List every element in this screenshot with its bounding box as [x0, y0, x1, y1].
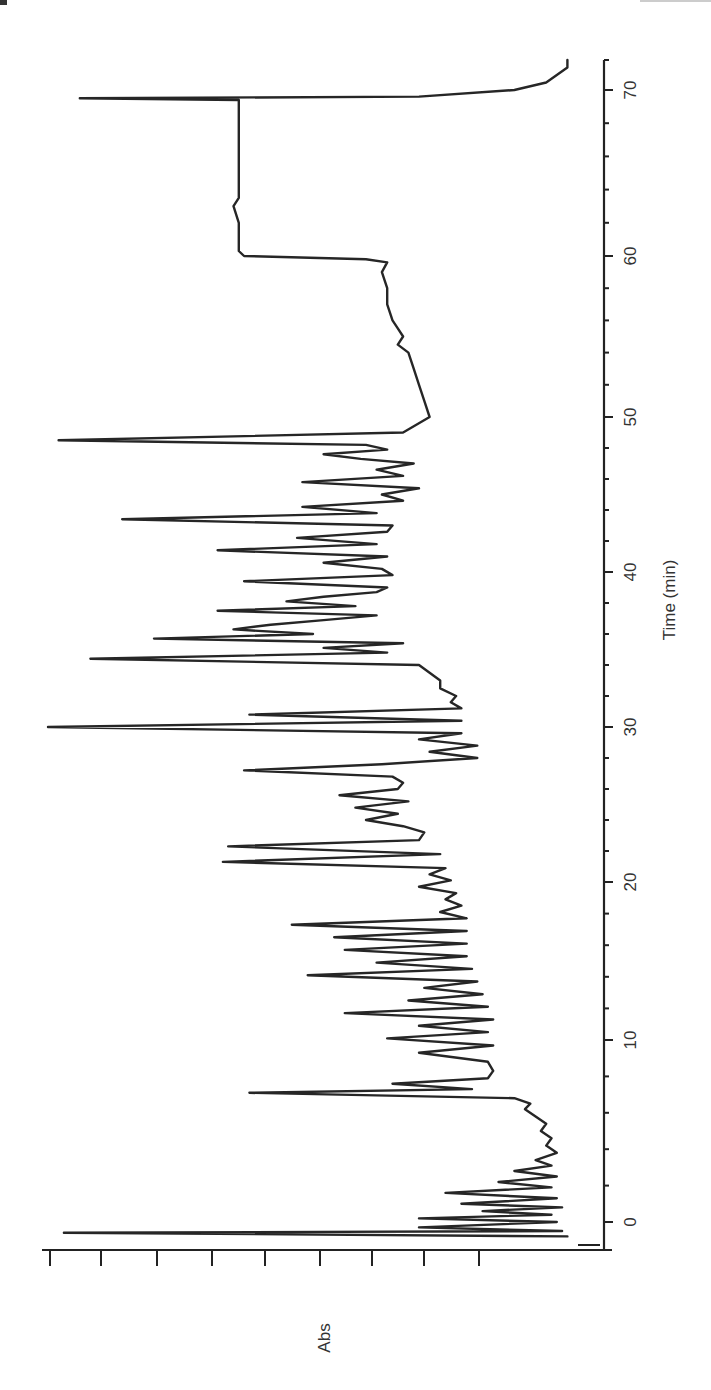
time-tick-label: 50 [621, 408, 640, 427]
absorbance-trace [48, 60, 567, 1236]
abs-axis-title: Abs [315, 1323, 334, 1352]
time-tick-label: 40 [621, 563, 640, 582]
time-tick-label: 20 [621, 873, 640, 892]
abs-axis [42, 1245, 612, 1266]
time-tick-label: 10 [621, 1031, 640, 1050]
time-axis: 010203040506070 [604, 60, 640, 1250]
time-axis-title: Time (min) [660, 560, 679, 641]
time-tick-label: 70 [621, 81, 640, 100]
chromatogram-chart: 010203040506070 Time (min) Abs [0, 0, 711, 1390]
time-tick-label: 60 [621, 247, 640, 266]
time-tick-label: 30 [621, 718, 640, 737]
header-fragment [640, 0, 711, 2]
page-number-fragment [0, 0, 7, 5]
time-tick-label: 0 [621, 1217, 640, 1226]
